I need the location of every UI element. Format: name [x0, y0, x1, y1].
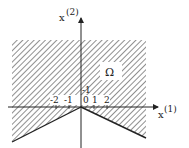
x-tick-0: 0 [83, 95, 89, 105]
x-axis-superscript: (1) [164, 104, 177, 114]
y-tick-neg1: -1 [82, 85, 91, 95]
x-tick-neg1: -1 [64, 95, 73, 105]
region-label: Ω [105, 66, 114, 79]
region-diagram: x (1) x (2) Ω -2 -1 0 1 2 -1 [0, 0, 189, 148]
y-axis-label: x [59, 12, 65, 23]
x-tick-1: 1 [92, 95, 98, 105]
omega-region [12, 40, 146, 142]
x-tick-neg2: -2 [50, 95, 59, 105]
y-axis-superscript: (2) [66, 7, 79, 17]
x-tick-2: 2 [104, 95, 110, 105]
